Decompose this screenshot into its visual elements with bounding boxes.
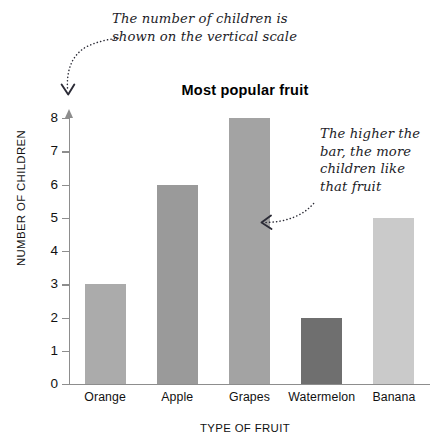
x-tick-label-orange: Orange — [69, 390, 141, 404]
bar-banana — [373, 218, 414, 384]
bar-orange — [85, 284, 126, 384]
bar-grapes — [229, 118, 270, 384]
x-tick-label-banana: Banana — [358, 390, 430, 404]
chart-figure: The number of children is shown on the v… — [0, 0, 440, 443]
x-tick-label-grapes: Grapes — [213, 390, 285, 404]
y-tick-0 — [62, 384, 70, 385]
bar-apple — [157, 185, 198, 385]
x-tick-label-apple: Apple — [141, 390, 213, 404]
x-tick-label-watermelon: Watermelon — [286, 390, 358, 404]
bar-watermelon — [301, 318, 342, 385]
bar-series — [0, 0, 440, 384]
x-axis-title: TYPE OF FRUIT — [150, 422, 340, 434]
